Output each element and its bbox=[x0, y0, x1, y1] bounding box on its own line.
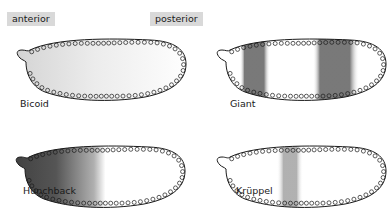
nucleus-icon bbox=[381, 69, 385, 73]
nucleus-icon bbox=[364, 193, 368, 197]
embryo-giant bbox=[200, 0, 390, 105]
embryo-kruppel bbox=[200, 107, 390, 212]
nucleus-icon bbox=[324, 148, 328, 152]
nucleus-icon bbox=[375, 186, 379, 190]
nucleus-icon bbox=[296, 41, 300, 45]
nucleus-icon bbox=[254, 150, 258, 154]
nucleus-icon bbox=[342, 147, 346, 151]
nucleus-icon bbox=[346, 199, 350, 203]
panel-bicoid: Bicoid bbox=[0, 0, 190, 105]
nucleus-icon bbox=[361, 42, 365, 46]
nucleus-icon bbox=[382, 63, 386, 67]
nucleus-icon bbox=[291, 41, 295, 45]
nucleus-icon bbox=[315, 201, 319, 205]
nucleus-icon bbox=[378, 158, 382, 162]
nucleus-icon bbox=[373, 47, 377, 51]
nucleus-icon bbox=[264, 200, 268, 204]
gene-label-kruppel: Krüppel bbox=[236, 185, 273, 196]
nucleus-icon bbox=[312, 148, 316, 152]
nucleus-icon bbox=[231, 77, 235, 81]
nucleus-icon bbox=[248, 151, 252, 155]
panel-giant: Giant bbox=[200, 0, 390, 105]
nucleus-icon bbox=[228, 178, 232, 182]
nucleus-icon bbox=[304, 94, 308, 98]
nucleus-icon bbox=[310, 201, 314, 205]
panel-hunchback: Hunchback bbox=[0, 107, 189, 212]
nucleus-icon bbox=[321, 201, 325, 205]
nucleus-icon bbox=[333, 200, 337, 204]
nucleus-icon bbox=[271, 200, 275, 204]
nucleus-icon bbox=[307, 148, 311, 152]
nucleus-icon bbox=[361, 149, 365, 153]
nucleus-icon bbox=[304, 201, 308, 205]
nucleus-icon bbox=[364, 86, 368, 90]
nucleus-icon bbox=[336, 147, 340, 151]
nucleus-icon bbox=[252, 197, 256, 201]
nucleus-icon bbox=[285, 41, 289, 45]
nucleus-icon bbox=[378, 51, 382, 55]
nucleus-icon bbox=[381, 57, 385, 61]
nucleus-icon bbox=[379, 74, 383, 78]
nucleus-icon bbox=[318, 148, 322, 152]
nucleus-icon bbox=[379, 181, 383, 185]
nucleus-icon bbox=[368, 44, 372, 48]
nucleus-icon bbox=[382, 170, 386, 174]
nucleus-icon bbox=[283, 94, 287, 98]
nucleus-icon bbox=[228, 71, 232, 75]
nucleus-icon bbox=[330, 147, 334, 151]
nucleus-icon bbox=[375, 79, 379, 83]
nucleus-icon bbox=[231, 184, 235, 188]
nucleus-icon bbox=[273, 149, 277, 153]
nucleus-icon bbox=[261, 149, 265, 153]
nucleus-icon bbox=[277, 94, 281, 98]
nucleus-icon bbox=[299, 94, 303, 98]
nucleus-icon bbox=[370, 83, 374, 87]
nucleus-icon bbox=[381, 176, 385, 180]
nucleus-icon bbox=[271, 93, 275, 97]
nucleus-icon bbox=[289, 94, 293, 98]
nucleus-icon bbox=[230, 157, 234, 161]
embryo-hunchback bbox=[0, 107, 189, 212]
nucleus-icon bbox=[236, 47, 240, 51]
nucleus-icon bbox=[267, 149, 271, 153]
nucleus-icon bbox=[349, 147, 353, 151]
nucleus-icon bbox=[381, 164, 385, 168]
nucleus-icon bbox=[352, 197, 356, 201]
nucleus-icon bbox=[302, 41, 306, 45]
nucleus-icon bbox=[258, 198, 262, 202]
nucleus-icon bbox=[273, 42, 277, 46]
panel-kruppel: Krüppel bbox=[200, 107, 390, 212]
nucleus-icon bbox=[294, 94, 298, 98]
nucleus-icon bbox=[358, 195, 362, 199]
nucleus-icon bbox=[373, 154, 377, 158]
gene-label-hunchback: Hunchback bbox=[23, 185, 76, 196]
nucleus-icon bbox=[242, 153, 246, 157]
nucleus-icon bbox=[236, 154, 240, 158]
nucleus-icon bbox=[279, 41, 283, 45]
nucleus-icon bbox=[370, 190, 374, 194]
nucleus-icon bbox=[339, 200, 343, 204]
nucleus-icon bbox=[355, 148, 359, 152]
nucleus-icon bbox=[307, 41, 311, 45]
nucleus-icon bbox=[368, 151, 372, 155]
embryo-bicoid bbox=[0, 0, 190, 105]
nucleus-icon bbox=[327, 201, 331, 205]
nucleus-icon bbox=[235, 82, 239, 86]
nucleus-icon bbox=[230, 50, 234, 54]
